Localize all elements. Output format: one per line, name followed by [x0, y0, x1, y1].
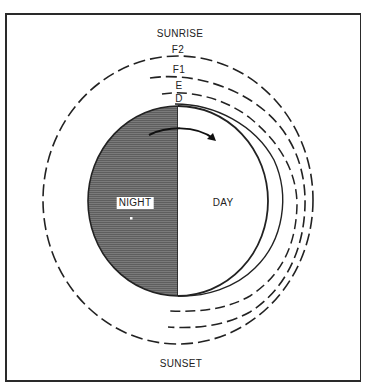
d-label: D [175, 93, 183, 104]
night-label: NIGHT [117, 197, 154, 209]
f2-label: F2 [172, 44, 184, 55]
ionosphere-diagram [0, 0, 367, 389]
day-label: DAY [213, 197, 234, 208]
sunrise-label: SUNRISE [157, 28, 204, 39]
sunset-label: SUNSET [160, 358, 202, 369]
observer-dot [130, 217, 133, 220]
f1-label: F1 [173, 64, 185, 75]
e-label: E [176, 80, 183, 91]
